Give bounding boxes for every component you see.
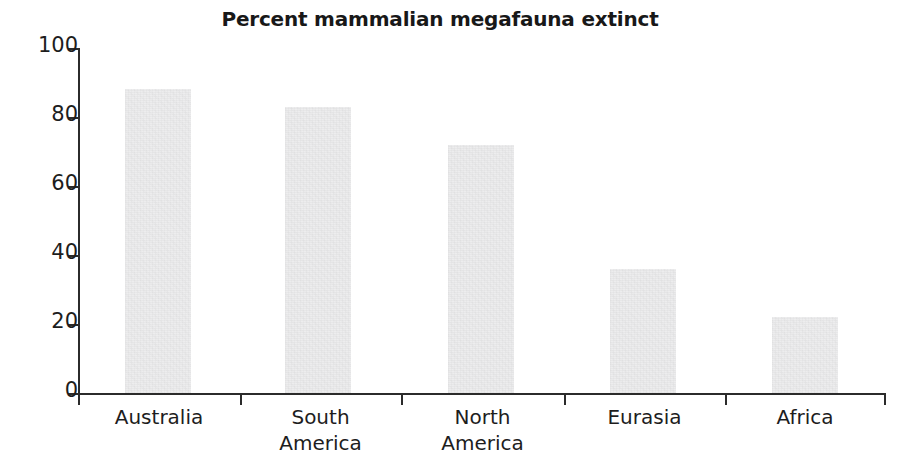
y-tick-label: 100 (26, 33, 78, 57)
y-axis-line (78, 48, 80, 395)
y-tick-label: 40 (26, 240, 78, 264)
x-label-australia: Australia (78, 404, 240, 430)
bar-australia (125, 89, 191, 393)
x-label-line-1: Africa (776, 405, 833, 429)
x-label-line-1: Eurasia (607, 405, 681, 429)
y-tick-label: 60 (26, 171, 78, 195)
x-label-line-2: America (240, 430, 401, 456)
bar-north-america (448, 145, 514, 393)
x-label-line-1: South (291, 405, 349, 429)
x-label-line-2: America (401, 430, 564, 456)
y-tick-label: 80 (26, 102, 78, 126)
y-tick-label: 0 (26, 378, 78, 402)
x-label-north-america: North America (401, 404, 564, 456)
x-axis-line (78, 393, 886, 395)
plot-area: 100 80 60 40 20 0 (0, 0, 916, 470)
x-label-line-1: North (455, 405, 511, 429)
y-tick-label: 20 (26, 309, 78, 333)
x-label-line-1: Australia (115, 405, 203, 429)
x-label-south-america: South America (240, 404, 401, 456)
bar-south-america (285, 107, 351, 393)
bar-africa (772, 317, 838, 393)
x-label-africa: Africa (725, 404, 885, 430)
chart-figure: Percent mammalian megafauna extinct 100 … (0, 0, 916, 470)
bar-eurasia (610, 269, 676, 393)
x-label-eurasia: Eurasia (564, 404, 725, 430)
